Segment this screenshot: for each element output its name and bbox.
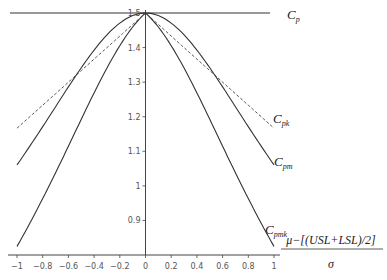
curves xyxy=(10,13,274,246)
x-axis-label-numerator: μ−[(USL+LSL)/2] xyxy=(285,233,376,247)
y-tick-label: 1 xyxy=(135,182,140,191)
x-tick-label: 0.2 xyxy=(165,262,178,271)
x-tick-label: 0 xyxy=(143,262,148,271)
x-axis-label: μ−[(USL+LSL)/2] σ xyxy=(281,233,383,271)
x-tick-label: 0.8 xyxy=(242,262,255,271)
y-tick-label: 1.4 xyxy=(128,44,141,53)
label-cpmk: Cpmk xyxy=(265,222,287,239)
y-tick-label: 1.1 xyxy=(128,147,141,156)
y-tick-label: 1.5 xyxy=(128,9,141,18)
x-tick-label: −0.8 xyxy=(33,262,52,271)
x-tick-label: −0.4 xyxy=(84,262,103,271)
x-tick-label: 1 xyxy=(271,262,276,271)
y-tick-label: 1.2 xyxy=(128,113,141,122)
x-tick-label: −1 xyxy=(11,262,23,271)
x-tick-label: 0.6 xyxy=(216,262,229,271)
x-tick-label: −0.2 xyxy=(110,262,129,271)
axes: −1−0.8−0.6−0.4−0.200.20.40.60.810.911.11… xyxy=(8,9,280,271)
label-cpk: Cpk xyxy=(273,111,290,128)
x-tick-label: 0.4 xyxy=(191,262,204,271)
y-tick-label: 0.9 xyxy=(128,216,141,225)
label-cp: Cp xyxy=(287,7,300,24)
x-tick-label: −0.6 xyxy=(59,262,78,271)
process-capability-chart: −1−0.8−0.6−0.4−0.200.20.40.60.810.911.11… xyxy=(0,0,387,280)
label-cpm: Cpm xyxy=(274,154,293,171)
curve-labels: CpCpkCpmCpmk xyxy=(265,7,300,239)
y-tick-label: 1.3 xyxy=(128,78,141,87)
x-axis-label-denominator: σ xyxy=(328,257,335,271)
